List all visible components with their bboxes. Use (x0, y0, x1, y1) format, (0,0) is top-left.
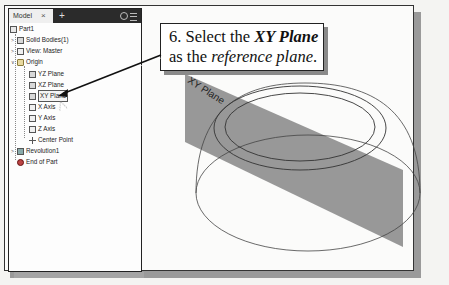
tree-item-end-of-part[interactable]: End of Part (17, 157, 58, 167)
plane-icon (29, 93, 36, 100)
plane-icon (29, 82, 36, 89)
collapse-icon[interactable]: ∨ (11, 57, 16, 67)
axis-icon (29, 115, 36, 122)
expand-icon[interactable]: > (11, 46, 16, 56)
tree-item-revolution1[interactable]: >Revolution1 (11, 146, 59, 156)
folder-icon (17, 59, 24, 66)
center-point-icon (29, 137, 36, 144)
solid-bodies-icon (17, 37, 24, 44)
callout-line2: as the reference plane. (169, 47, 323, 67)
browser-header: Model × + (9, 9, 141, 23)
tree-item-center-point[interactable]: Center Point (29, 135, 73, 145)
close-icon[interactable]: × (41, 9, 46, 23)
tree-item-z-axis[interactable]: Z Axis (29, 124, 55, 134)
menu-icon[interactable] (130, 13, 137, 21)
tree-item-solid-bodies[interactable]: >Solid Bodies(1) (11, 35, 69, 45)
tree-item-y-axis[interactable]: Y Axis (29, 113, 55, 123)
part-icon (10, 26, 17, 33)
axis-icon (29, 126, 36, 133)
axis-icon (29, 104, 36, 111)
tab-label: Model (13, 12, 32, 19)
revolution-icon (17, 148, 24, 155)
tree-item-origin[interactable]: ∨Origin (11, 57, 43, 67)
search-icon[interactable] (120, 12, 128, 20)
tree-item-view-master[interactable]: >View: Master (11, 46, 62, 56)
tree-item-xz-plane[interactable]: XZ Plane (29, 80, 64, 90)
view-icon (17, 48, 24, 55)
plane-icon (29, 71, 36, 78)
model-browser: Model × + Part1 >Solid Bodies(1) >View: … (8, 8, 142, 272)
instruction-callout: 6. Select the XY Plane as the reference … (160, 23, 324, 71)
tree-item-x-axis[interactable]: X Axis (29, 102, 56, 112)
end-of-part-icon (17, 159, 24, 166)
tree-item-part1[interactable]: Part1 (10, 24, 34, 34)
callout-line1: 6. Select the XY Plane (169, 27, 323, 47)
tab-model[interactable]: Model × (9, 9, 53, 23)
tree-item-yz-plane[interactable]: YZ Plane (29, 69, 64, 79)
expand-icon[interactable]: > (11, 146, 16, 156)
add-icon[interactable]: + (59, 9, 65, 22)
expand-icon[interactable]: > (11, 35, 16, 45)
